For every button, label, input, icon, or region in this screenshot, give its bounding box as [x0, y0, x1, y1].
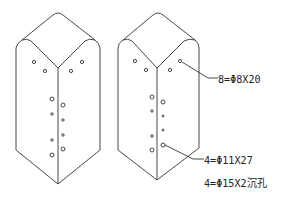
- leader-line-1: [182, 62, 218, 78]
- left-block: [16, 13, 100, 184]
- annotation-hole-spec-1: 8=Φ8X20: [218, 73, 261, 86]
- leader-line-2: [165, 145, 204, 159]
- right-block: [118, 13, 218, 180]
- annotation-hole-spec-2: 4=Φ11X27: [204, 154, 253, 167]
- right-block-holes: [133, 59, 181, 152]
- annotation-hole-spec-3: 4=Φ15X2沉孔: [204, 174, 267, 190]
- drawing-canvas: [0, 0, 285, 199]
